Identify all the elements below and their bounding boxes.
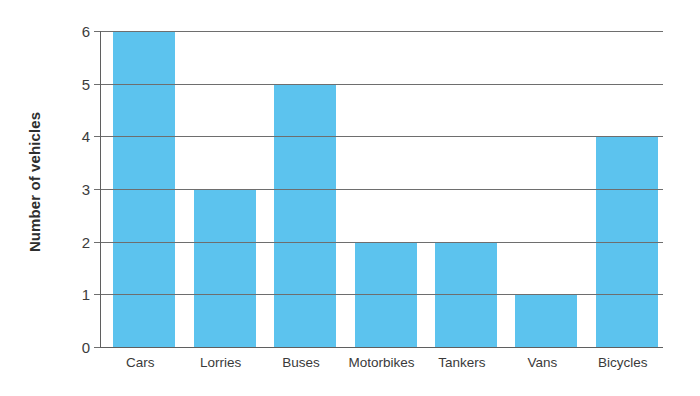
bar-lorries <box>194 189 256 347</box>
x-tick-label-bicycles: Bicycles <box>583 353 663 373</box>
x-tick-label-vans: Vans <box>502 353 582 373</box>
y-tick-label-3: 3 <box>64 182 90 197</box>
y-tick-mark-2 <box>94 242 100 243</box>
y-tick-mark-3 <box>94 189 100 190</box>
y-tick-mark-5 <box>94 84 100 85</box>
gridline-4 <box>100 136 663 137</box>
gridline-6 <box>100 31 663 32</box>
y-tick-mark-0 <box>94 347 100 348</box>
gridline-1 <box>100 294 663 295</box>
x-tick-label-buses: Buses <box>261 353 341 373</box>
y-axis-tick-labels: 6543210 <box>58 0 90 396</box>
bar-vans <box>515 294 577 347</box>
y-tick-mark-4 <box>94 136 100 137</box>
gridline-5 <box>100 84 663 85</box>
plot-area <box>100 31 663 347</box>
y-tick-mark-1 <box>94 294 100 295</box>
x-tick-label-tankers: Tankers <box>422 353 502 373</box>
x-tick-label-lorries: Lorries <box>180 353 260 373</box>
x-tick-label-motorbikes: Motorbikes <box>341 353 421 373</box>
x-tick-label-cars: Cars <box>100 353 180 373</box>
gridline-0 <box>100 347 663 348</box>
y-axis-title: Number of vehicles <box>22 17 46 347</box>
y-tick-label-4: 4 <box>64 129 90 144</box>
y-tick-label-0: 0 <box>64 340 90 355</box>
y-tick-label-5: 5 <box>64 76 90 91</box>
gridline-3 <box>100 189 663 190</box>
y-tick-label-6: 6 <box>64 24 90 39</box>
y-tick-mark-6 <box>94 31 100 32</box>
bar-buses <box>274 84 336 347</box>
y-axis-line <box>100 31 101 348</box>
gridline-2 <box>100 242 663 243</box>
y-tick-label-2: 2 <box>64 234 90 249</box>
x-axis-tick-labels: CarsLorriesBusesMotorbikesTankersVansBic… <box>100 353 663 377</box>
bar-chart: Number of vehicles 6543210 CarsLorriesBu… <box>0 0 700 396</box>
y-tick-label-1: 1 <box>64 287 90 302</box>
